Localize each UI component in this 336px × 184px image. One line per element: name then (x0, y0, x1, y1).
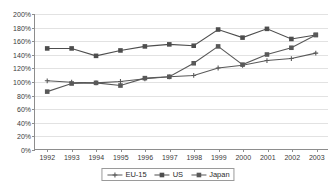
data-point-marker (191, 43, 196, 48)
x-axis-tick-label: 2002 (284, 154, 300, 162)
data-point-marker (69, 46, 74, 51)
y-axis-tick-label: 120% (13, 65, 31, 72)
legend-marker-icon (106, 171, 123, 179)
data-point-marker (289, 56, 294, 61)
plot-area: 0%20%40%60%80%100%120%140%160%180%200% 1… (34, 14, 328, 150)
series-line (47, 35, 316, 92)
series-layer (35, 14, 328, 149)
data-point-marker (240, 62, 245, 67)
data-point-marker (45, 89, 50, 94)
data-point-marker (289, 45, 294, 50)
y-axis-tick (32, 150, 35, 151)
legend-item-us[interactable]: US (154, 170, 183, 179)
data-point-marker (94, 54, 99, 59)
chart-title (70, 0, 332, 4)
y-axis-tick-label: 140% (13, 51, 31, 58)
data-point-marker (191, 61, 196, 66)
legend-marker-icon (154, 171, 171, 179)
data-point-marker (45, 46, 50, 51)
y-axis-tick-label: 40% (17, 119, 31, 126)
y-axis-tick-label: 100% (13, 79, 31, 86)
y-axis-tick-label: 0% (21, 147, 31, 154)
series-line (47, 53, 316, 83)
y-axis-tick-label: 160% (13, 38, 31, 45)
chart-legend: EU-15USJapan (101, 168, 234, 181)
data-point-marker (289, 37, 294, 42)
data-point-marker (167, 42, 172, 47)
x-axis-tick (47, 149, 48, 152)
data-point-marker (118, 83, 123, 88)
x-axis-tick-label: 1994 (88, 154, 104, 162)
series-japan (45, 33, 318, 94)
x-axis-tick-label: 1992 (39, 154, 55, 162)
y-axis-tick-label: 60% (17, 106, 31, 113)
y-axis-tick-label: 20% (17, 133, 31, 140)
legend-item-japan[interactable]: Japan (190, 170, 229, 179)
data-point-marker (143, 44, 148, 49)
legend-item-eu-15[interactable]: EU-15 (106, 170, 146, 179)
data-point-marker (216, 66, 221, 71)
data-point-marker (167, 74, 172, 79)
x-axis-tick (268, 149, 269, 152)
data-point-marker (45, 78, 50, 83)
data-point-marker (69, 81, 74, 86)
x-axis-tick (72, 149, 73, 152)
data-point-marker (118, 48, 123, 53)
x-axis-tick (145, 149, 146, 152)
x-axis-tick (96, 149, 97, 152)
data-point-marker (191, 73, 196, 78)
series-eu-15 (45, 51, 318, 85)
data-point-marker (216, 44, 221, 49)
legend-label: US (173, 170, 183, 179)
legend-label: EU-15 (125, 170, 146, 179)
x-axis-tick (317, 149, 318, 152)
x-axis-tick-label: 1997 (162, 154, 178, 162)
data-point-marker (216, 27, 221, 32)
x-axis-tick-label: 1996 (137, 154, 153, 162)
data-point-marker (313, 33, 318, 38)
x-axis-tick-label: 1999 (211, 154, 227, 162)
data-point-marker (240, 35, 245, 40)
line-chart: 0%20%40%60%80%100%120%140%160%180%200% 1… (0, 0, 336, 184)
data-point-marker (143, 76, 148, 81)
x-axis-tick (194, 149, 195, 152)
data-point-marker (313, 51, 318, 56)
data-point-marker (94, 81, 99, 86)
x-axis-tick-label: 2001 (260, 154, 276, 162)
y-axis-tick-label: 200% (13, 11, 31, 18)
legend-label: Japan (209, 170, 229, 179)
x-axis-tick (243, 149, 244, 152)
legend-marker-icon (190, 171, 207, 179)
y-axis-tick-label: 80% (17, 92, 31, 99)
x-axis-tick-label: 2000 (235, 154, 251, 162)
data-point-marker (265, 52, 270, 57)
y-axis-tick-label: 180% (13, 24, 31, 31)
x-axis-tick-label: 1995 (113, 154, 129, 162)
x-axis-tick-label: 2003 (309, 154, 325, 162)
x-axis-tick (121, 149, 122, 152)
series-us (45, 27, 318, 59)
data-point-marker (265, 58, 270, 63)
x-axis-tick-label: 1993 (64, 154, 80, 162)
x-axis-tick-label: 1998 (186, 154, 202, 162)
x-axis-tick (170, 149, 171, 152)
data-point-marker (118, 79, 123, 84)
x-axis-tick (219, 149, 220, 152)
data-point-marker (265, 27, 270, 32)
x-axis-tick (292, 149, 293, 152)
